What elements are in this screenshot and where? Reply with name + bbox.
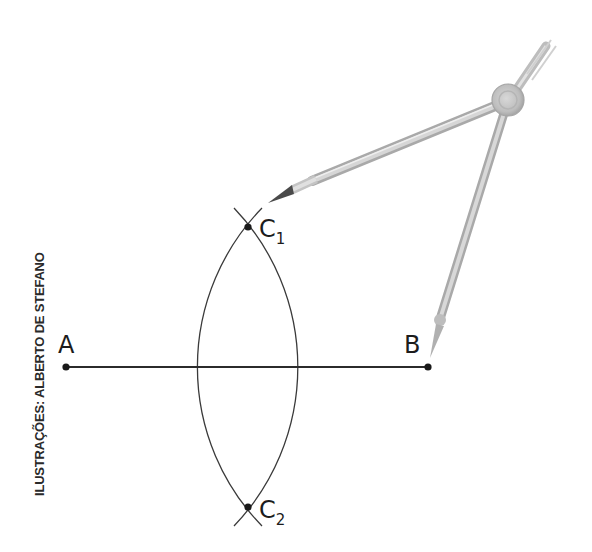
point-c2 (244, 503, 251, 510)
label-c2: C2 (259, 496, 285, 529)
point-a (62, 363, 69, 370)
label-c2-subscript: 2 (276, 511, 286, 529)
label-b: B (404, 331, 420, 359)
point-b (424, 363, 431, 370)
needle-tip (430, 324, 444, 358)
label-c1-subscript: 1 (276, 230, 286, 248)
label-c1-main: C (259, 215, 276, 243)
label-c2-main: C (259, 496, 276, 524)
needle-knob (434, 314, 446, 326)
pencil-lead (268, 185, 294, 203)
point-c1 (244, 223, 251, 230)
label-c1: C1 (259, 215, 285, 248)
compass-icon (268, 40, 556, 358)
label-a: A (58, 331, 75, 359)
construction-diagram: ILUSTRAÇÕES: ALBERTO DE STEFANO A B C1 C… (0, 0, 592, 552)
compass-needle-leg (430, 110, 505, 358)
compass-pivot (492, 84, 524, 116)
compass-pencil-leg (268, 104, 500, 203)
illustration-credit: ILUSTRAÇÕES: ALBERTO DE STEFANO (32, 252, 47, 496)
